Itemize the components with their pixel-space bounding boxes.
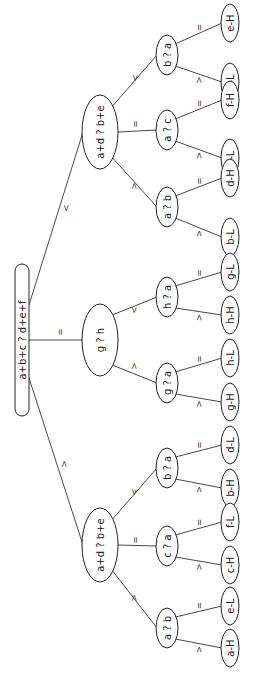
edge-label-greater: > — [129, 594, 139, 602]
decision-tree-diagram: <=><=><><=>=>=>=>=>=>=>=>=>a+b+c ? d+e+f… — [0, 0, 260, 677]
leaf-node-label: g-H — [225, 393, 236, 410]
edge-label-less: < — [129, 488, 139, 496]
nodes-layer: <=><=><><=>=>=>=>=>=>=>=>=>a+b+c ? d+e+f… — [15, 4, 239, 667]
level2-node-label: a ? b — [162, 195, 173, 219]
level1-node-label: a+d ? b+e — [95, 518, 106, 571]
edge-label-greater: > — [194, 76, 204, 84]
level2-node-label: g ? a — [162, 371, 173, 395]
edge-label-equal: = — [194, 602, 204, 610]
edge-label-equal: = — [194, 519, 204, 527]
edge-label-greater: > — [194, 646, 204, 654]
leaf-node-label: h-L — [225, 350, 236, 366]
edge-label-greater: > — [194, 486, 204, 494]
edge-label-equal: = — [194, 100, 204, 108]
level2-node-label: a ? c — [162, 118, 173, 141]
edge-root-to-n1_gt — [29, 378, 83, 545]
level1-node-label: a+d ? b+e — [95, 105, 106, 158]
leaf-node-label: g-L — [225, 264, 236, 280]
edge-label-greater: > — [194, 314, 204, 322]
edge-label-equal: = — [130, 120, 140, 128]
edge-label-equal: = — [194, 355, 204, 363]
edge-n1_gt-to-n2_7 — [118, 545, 157, 546]
edge-label-less: < — [61, 204, 71, 212]
level2-node-label: h ? a — [162, 285, 173, 309]
edge-label-equal: = — [194, 24, 204, 32]
edge-label-equal: = — [130, 536, 140, 544]
edge-label-equal: = — [194, 269, 204, 277]
leaf-node-label: d-H — [225, 169, 236, 186]
edge-n1_lt-to-n2_2 — [118, 130, 157, 132]
leaf-node-label: a-H — [225, 639, 236, 656]
root-node-label: a+b+c ? d+e+f — [17, 300, 28, 380]
edge-label-greater: > — [129, 182, 139, 190]
edge-label-greater: > — [194, 400, 204, 408]
level2-node-label: b ? a — [162, 456, 173, 480]
level2-node-label: b ? a — [162, 43, 173, 67]
edge-label-less: < — [130, 74, 140, 82]
leaf-node-label: f-L — [225, 515, 236, 528]
edge-label-greater: > — [129, 362, 139, 370]
edge-label-greater: > — [194, 563, 204, 571]
leaf-node-label: b-H — [225, 479, 236, 496]
decision-tree-canvas: <=><=><><=>=>=>=>=>=>=>=>=>a+b+c ? d+e+f… — [0, 0, 260, 677]
leaf-node-label: c-H — [225, 557, 236, 574]
level1-node-label: g ? h — [95, 328, 106, 352]
edge-label-less: < — [129, 306, 139, 314]
edge-root-to-n1_lt — [29, 132, 83, 305]
leaf-node-label: e-H — [225, 14, 236, 31]
edge-label-greater: > — [194, 230, 204, 238]
edge-label-equal: = — [194, 177, 204, 185]
level2-node-label: a ? b — [162, 616, 173, 640]
leaf-node-label: b-L — [225, 229, 236, 245]
leaf-node-label: f-H — [225, 93, 236, 107]
edge-label-greater: > — [59, 460, 69, 468]
edge-label-equal: = — [55, 328, 65, 336]
edge-label-equal: = — [194, 441, 204, 449]
edge-label-greater: > — [194, 152, 204, 160]
leaf-node-label: e-L — [225, 598, 236, 614]
level2-node-label: c ? a — [162, 534, 173, 557]
leaf-node-label: h-H — [225, 306, 236, 323]
leaf-node-label: d-L — [225, 437, 236, 453]
